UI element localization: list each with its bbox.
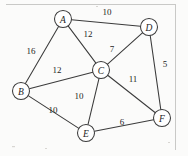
graph-node-f: F: [154, 110, 171, 127]
node-label-b: B: [18, 87, 24, 97]
node-label-c: C: [98, 66, 105, 76]
graph-node-d: D: [141, 19, 158, 36]
node-label-a: A: [59, 15, 66, 25]
edge-weight-c-e: 10: [75, 91, 85, 101]
edge-weight-a-c: 12: [84, 29, 93, 39]
edges-layer: [25, 20, 161, 132]
graph-edge-d-f: [150, 35, 161, 109]
graph-edge-c-e: [88, 78, 99, 124]
graph-node-a: A: [55, 11, 72, 28]
edge-weight-a-b: 16: [27, 46, 37, 56]
edge-weight-b-e: 10: [49, 105, 59, 115]
edge-weight-b-c: 12: [53, 65, 62, 75]
graph-edge-a-d: [71, 20, 140, 26]
edge-weight-c-f: 11: [129, 74, 138, 84]
graph-canvas: 10161271251110106 ABCDEF: [0, 0, 188, 156]
node-label-f: F: [158, 114, 165, 124]
graph-figure: 10161271251110106 ABCDEF: [0, 0, 188, 156]
node-label-e: E: [82, 129, 89, 139]
graph-node-b: B: [13, 83, 30, 100]
graph-node-e: E: [78, 125, 95, 142]
edge-weight-d-f: 5: [163, 59, 168, 69]
node-label-d: D: [145, 23, 153, 33]
edge-weight-e-f: 6: [120, 117, 125, 127]
edge-weight-c-d: 7: [110, 44, 115, 54]
edge-weight-a-d: 10: [103, 7, 113, 17]
graph-node-c: C: [93, 62, 110, 79]
